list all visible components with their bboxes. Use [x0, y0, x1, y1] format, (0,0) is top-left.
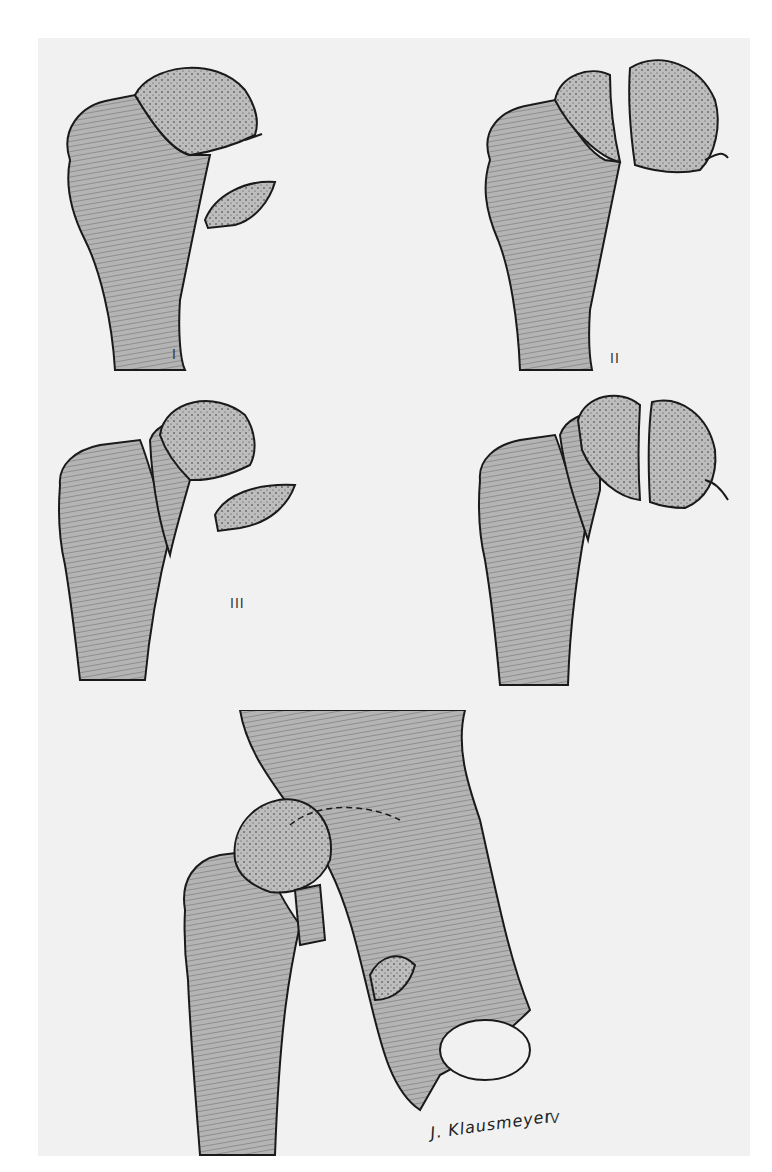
panel-type-iv-acetabular: J. Klausmeyer IV: [170, 710, 650, 1160]
femur-fracture-type-iv-neck-illustration: [460, 390, 740, 700]
panel-type-iii: III: [40, 395, 320, 695]
femur-fracture-type-i-illustration: [40, 60, 300, 380]
panel-label-i: I: [172, 346, 177, 362]
panel-label-iv: IV: [545, 1110, 560, 1126]
femur-acetabulum-fracture-illustration: [170, 710, 650, 1160]
femur-fracture-type-ii-illustration: [460, 50, 740, 380]
panel-label-ii: II: [610, 350, 620, 366]
femur-fracture-type-iii-illustration: [40, 395, 320, 695]
panel-label-iii: III: [230, 595, 245, 611]
panel-type-i: I: [40, 60, 300, 380]
panel-type-ii: II: [460, 50, 740, 380]
panel-type-iv-neck: [460, 390, 740, 700]
